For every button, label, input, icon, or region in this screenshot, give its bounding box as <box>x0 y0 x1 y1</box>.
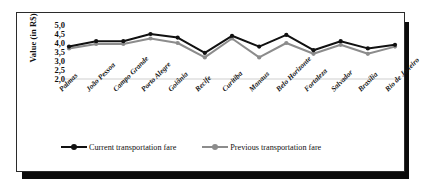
legend-label: Current transportation fare <box>89 143 176 152</box>
data-point-marker <box>230 34 234 38</box>
data-point-marker <box>366 52 370 56</box>
data-point-marker <box>121 39 125 43</box>
chart-legend: Current transportation farePrevious tran… <box>61 139 391 155</box>
figure-root: Value (in R$) 5,04,54,03,53,02,52,0 Palm… <box>0 0 423 193</box>
data-point-marker <box>339 43 343 47</box>
legend-label: Previous transportation fare <box>230 143 321 152</box>
data-point-marker <box>94 39 98 43</box>
data-point-marker <box>203 55 207 59</box>
data-point-marker <box>257 45 261 49</box>
data-point-marker <box>339 39 343 43</box>
legend-entry[interactable]: Previous transportation fare <box>202 143 321 152</box>
data-point-marker <box>67 45 71 49</box>
data-point-marker <box>284 33 288 37</box>
data-point-marker <box>176 41 180 45</box>
data-point-marker <box>203 51 207 55</box>
data-point-marker <box>366 46 370 50</box>
legend-marker-icon <box>61 143 87 151</box>
data-point-marker <box>176 36 180 40</box>
legend-marker-icon <box>202 143 228 151</box>
data-point-marker <box>257 55 261 59</box>
data-point-marker <box>311 52 315 56</box>
chart-frame: Value (in R$) 5,04,54,03,53,02,52,0 Palm… <box>16 12 405 172</box>
data-point-marker <box>311 48 315 52</box>
data-point-marker <box>148 32 152 36</box>
data-point-marker <box>148 36 152 40</box>
data-point-marker <box>393 43 397 47</box>
plot-area: Value (in R$) 5,04,54,03,53,02,52,0 Palm… <box>17 13 406 173</box>
data-point-marker <box>284 41 288 45</box>
legend-entry[interactable]: Current transportation fare <box>61 143 176 152</box>
